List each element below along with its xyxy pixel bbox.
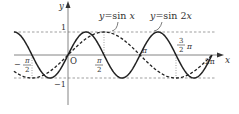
svg-text:π: π <box>96 57 102 65</box>
y-axis-arrow-icon <box>66 1 71 8</box>
sin-x-annotation: y=sin x <box>98 10 135 21</box>
x-tick-pi: π <box>141 46 148 55</box>
sin-2x-leader <box>154 22 162 31</box>
x-axis-arrow-icon <box>217 53 224 58</box>
sin-2x-annotation: y=sin 2x <box>149 10 192 21</box>
sin-x-leader <box>112 22 118 31</box>
x-tick-two-pi: 2π <box>205 57 215 66</box>
svg-text:−: − <box>14 60 21 69</box>
svg-text:π: π <box>24 57 30 65</box>
trig-graph: y=sin x y=sin 2x y x O 1 −1 − π 2 π 2 π … <box>0 0 239 114</box>
svg-text:2: 2 <box>179 46 183 54</box>
x-tick-three-half-pi: 3 2 π <box>177 37 193 54</box>
origin-label: O <box>70 56 77 66</box>
svg-text:2: 2 <box>97 66 101 74</box>
svg-text:π: π <box>186 42 193 51</box>
svg-text:2: 2 <box>25 66 29 74</box>
y-tick-1: 1 <box>61 23 66 32</box>
y-axis-label: y <box>58 1 64 11</box>
y-tick-minus-1: −1 <box>54 80 66 89</box>
svg-text:3: 3 <box>179 37 183 45</box>
x-axis-label: x <box>225 55 230 65</box>
x-tick-half-pi: π 2 <box>95 57 103 74</box>
x-tick-minus-half-pi: − π 2 <box>14 57 31 74</box>
